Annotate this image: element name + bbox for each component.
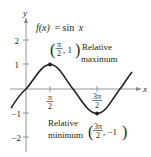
min-coord-num: 3π (94, 122, 102, 131)
min-close-paren: ) (122, 123, 127, 141)
y-tick-label-m2: −2 (11, 133, 21, 143)
max-coord-num: π (57, 40, 61, 49)
function-name: f(x) (36, 22, 51, 34)
relative-maximum-point (48, 63, 52, 67)
min-label-line1: Relative (48, 118, 78, 128)
min-open-paren: ( (88, 123, 93, 141)
function-equals: = sin (54, 22, 74, 33)
min-coord-den: 2 (96, 131, 100, 140)
min-label-line2: minimum (48, 130, 83, 140)
y-tick-label-1: 1 (15, 60, 20, 70)
y-axis-label: y (22, 8, 27, 18)
max-coord-y: , 1 (63, 45, 72, 55)
max-open-paren: ( (50, 41, 55, 59)
function-variable: x (78, 22, 84, 33)
y-tick-label-2: 2 (15, 36, 20, 46)
max-label-line1: Relative (82, 42, 112, 52)
max-close-paren: ) (75, 41, 80, 59)
max-coord-den: 2 (57, 49, 61, 58)
relative-minimum-point (95, 112, 99, 116)
y-tick-label-m1: −1 (11, 109, 21, 119)
function-label: f(x) = sin x (36, 22, 84, 34)
max-label-line2: maximum (81, 54, 118, 64)
x-axis-arrow-icon (136, 87, 142, 91)
min-coord-y: , −1 (103, 127, 117, 137)
x-tick-label-3pi-den: 2 (95, 101, 99, 110)
x-axis-label: x (142, 84, 147, 94)
x-tick-label-pi-den: 2 (48, 102, 52, 111)
sine-graph: y x 2 1 −1 −2 π 2 3π 2 f(x) = sin x ( π … (0, 0, 151, 157)
